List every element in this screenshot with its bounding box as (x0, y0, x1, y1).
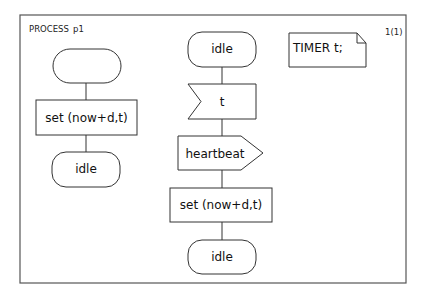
process-name: p1 (73, 24, 84, 34)
sdl-diagram-canvas: PROCESS p1 1(1) TIMER t; set (now+d,t) i… (0, 0, 426, 295)
next-state-idle-center[interactable]: idle (188, 240, 256, 274)
state-label: idle (211, 250, 233, 264)
output-signal-heartbeat[interactable]: heartbeat (178, 136, 263, 170)
next-state-idle-left[interactable]: idle (52, 152, 120, 187)
task-set-timer-left[interactable]: set (now+d,t) (36, 100, 137, 135)
state-label: idle (211, 42, 233, 56)
timer-declaration-text: TIMER t; (292, 41, 343, 55)
task-set-timer-center[interactable]: set (now+d,t) (170, 188, 272, 222)
task-label: set (now+d,t) (45, 111, 127, 125)
task-label: set (now+d,t) (180, 198, 262, 212)
start-symbol[interactable] (53, 49, 121, 83)
input-signal-t[interactable]: t (188, 84, 256, 119)
timer-declaration[interactable]: TIMER t; (289, 33, 366, 67)
process-keyword: PROCESS (29, 24, 69, 34)
output-label: heartbeat (185, 147, 244, 161)
page-number: 1(1) (385, 27, 402, 37)
state-idle[interactable]: idle (188, 32, 256, 67)
input-label: t (220, 95, 225, 109)
state-label: idle (75, 162, 97, 176)
